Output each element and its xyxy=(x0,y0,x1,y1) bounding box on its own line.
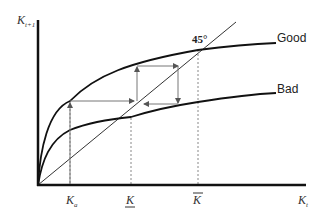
k-underline-label: K xyxy=(125,193,135,207)
ka-label: Ka xyxy=(65,193,78,209)
good-curve xyxy=(38,43,276,185)
bad-curve xyxy=(38,93,276,185)
x-axis-label: Kt xyxy=(297,193,309,209)
line-45-degree xyxy=(38,22,236,185)
line-45-label: 45° xyxy=(192,33,207,45)
y-axis-label: Kt+1 xyxy=(16,13,35,29)
k-bar-label: K xyxy=(192,193,202,207)
bad-curve-label: Bad xyxy=(277,82,298,96)
good-curve-label: Good xyxy=(277,31,306,45)
capital-dynamics-diagram: Kt+1 Kt 45° Good Bad Ka K K xyxy=(0,0,324,217)
